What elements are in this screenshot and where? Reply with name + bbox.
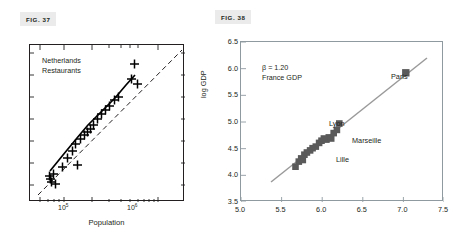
figure-38-label-paris: Paris — [391, 72, 408, 81]
figure-38-xtick-5-0: 5.0 — [235, 205, 245, 214]
figure-38-label-lille: Lille — [336, 155, 349, 164]
figure-38-xtick-7-5: 7.5 — [438, 205, 448, 214]
figure-38-xtick-6-5: 6.5 — [357, 205, 367, 214]
figure-38-x-tick-labels: 5.0 5.5 6.0 6.5 7.0 7.5 — [0, 0, 474, 237]
figure-38-label-marseille: Marseille — [352, 136, 381, 145]
figure-38-xtick-7-0: 7.0 — [397, 205, 407, 214]
figure-38-label-lyon: Lyon — [329, 119, 345, 128]
figure-38-xtick-5-5: 5.5 — [276, 205, 286, 214]
figure-page: FIG. 37 — [0, 0, 474, 237]
figure-38-xtick-6-0: 6.0 — [316, 205, 326, 214]
